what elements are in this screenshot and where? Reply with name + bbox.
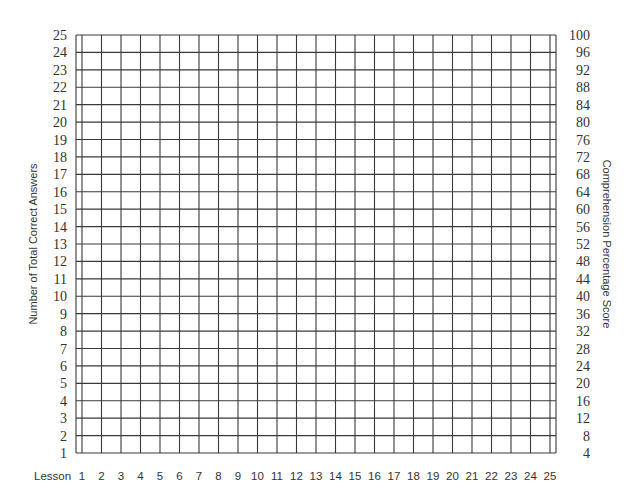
x-tick-label: 12 xyxy=(290,470,303,482)
left-tick-label: 24 xyxy=(53,45,67,60)
x-tick-label: 19 xyxy=(427,470,440,482)
right-tick-label: 76 xyxy=(576,133,590,148)
x-tick-label: 22 xyxy=(485,470,498,482)
left-tick-label: 15 xyxy=(53,202,67,217)
x-tick-label: 21 xyxy=(466,470,479,482)
x-tick-label: 20 xyxy=(446,470,459,482)
x-tick-label: 15 xyxy=(349,470,362,482)
x-tick-label: 16 xyxy=(368,470,381,482)
x-tick-label: 25 xyxy=(544,470,557,482)
right-tick-label: 80 xyxy=(576,115,590,130)
right-tick-label: 100 xyxy=(569,28,590,43)
right-tick-label: 40 xyxy=(576,289,590,304)
x-tick-label: 13 xyxy=(310,470,323,482)
right-tick-label: 20 xyxy=(576,376,590,391)
left-tick-label: 10 xyxy=(53,289,67,304)
left-axis-ticks: 2524232221201918171615141312111098765432… xyxy=(53,28,67,461)
left-tick-label: 12 xyxy=(53,254,67,269)
left-tick-label: 8 xyxy=(60,324,67,339)
x-tick-label: 2 xyxy=(98,470,104,482)
left-tick-label: 7 xyxy=(60,342,67,357)
left-tick-label: 22 xyxy=(53,80,67,95)
right-tick-label: 28 xyxy=(576,342,590,357)
right-tick-label: 32 xyxy=(576,324,590,339)
right-tick-label: 72 xyxy=(576,150,590,165)
right-tick-label: 52 xyxy=(576,237,590,252)
x-tick-label: 18 xyxy=(407,470,420,482)
right-tick-label: 88 xyxy=(576,80,590,95)
right-axis-label: Comprehension Percentage Score xyxy=(601,160,613,329)
left-tick-label: 19 xyxy=(53,133,67,148)
grid-lines xyxy=(76,35,556,453)
x-tick-label: 3 xyxy=(118,470,124,482)
right-tick-label: 84 xyxy=(576,98,590,113)
left-tick-label: 23 xyxy=(53,63,67,78)
right-axis-ticks: 1009692888480767268646056524844403632282… xyxy=(569,28,590,461)
right-tick-label: 36 xyxy=(576,307,590,322)
x-tick-label: 4 xyxy=(137,470,144,482)
right-tick-label: 8 xyxy=(583,429,590,444)
left-tick-label: 13 xyxy=(53,237,67,252)
x-tick-label: 24 xyxy=(524,470,537,482)
left-tick-label: 6 xyxy=(60,359,67,374)
left-tick-label: 21 xyxy=(53,98,67,113)
left-tick-label: 16 xyxy=(53,185,67,200)
left-tick-label: 1 xyxy=(60,446,67,461)
left-tick-label: 2 xyxy=(60,429,67,444)
left-tick-label: 25 xyxy=(53,28,67,43)
left-tick-label: 3 xyxy=(60,411,67,426)
left-tick-label: 18 xyxy=(53,150,67,165)
right-tick-label: 68 xyxy=(576,167,590,182)
right-tick-label: 24 xyxy=(576,359,590,374)
left-axis-label: Number of Total Correct Answers xyxy=(27,163,39,325)
x-tick-label: 10 xyxy=(251,470,264,482)
left-tick-label: 11 xyxy=(54,272,67,287)
right-tick-label: 44 xyxy=(576,272,590,287)
x-tick-label: 17 xyxy=(388,470,401,482)
x-axis-ticks: 1234567891011121314151617181920212223242… xyxy=(79,470,557,482)
x-tick-label: 7 xyxy=(196,470,202,482)
right-tick-label: 56 xyxy=(576,220,590,235)
x-tick-label: 8 xyxy=(215,470,221,482)
right-tick-label: 16 xyxy=(576,394,590,409)
x-tick-label: 6 xyxy=(176,470,182,482)
right-tick-label: 64 xyxy=(576,185,590,200)
x-axis-label: Lesson xyxy=(34,470,71,482)
left-tick-label: 20 xyxy=(53,115,67,130)
progress-grid-chart: 2524232221201918171615141312111098765432… xyxy=(0,0,639,502)
x-tick-label: 5 xyxy=(157,470,163,482)
left-tick-label: 9 xyxy=(60,307,67,322)
left-tick-label: 14 xyxy=(53,220,67,235)
x-tick-label: 23 xyxy=(505,470,518,482)
x-tick-label: 14 xyxy=(329,470,342,482)
x-tick-label: 11 xyxy=(271,470,283,482)
left-tick-label: 4 xyxy=(60,394,67,409)
left-tick-label: 17 xyxy=(53,167,67,182)
right-tick-label: 92 xyxy=(576,63,590,78)
right-tick-label: 96 xyxy=(576,45,590,60)
right-tick-label: 60 xyxy=(576,202,590,217)
x-tick-label: 1 xyxy=(79,470,85,482)
left-tick-label: 5 xyxy=(60,376,67,391)
right-tick-label: 48 xyxy=(576,254,590,269)
right-tick-label: 4 xyxy=(583,446,590,461)
x-tick-label: 9 xyxy=(235,470,241,482)
right-tick-label: 12 xyxy=(576,411,590,426)
